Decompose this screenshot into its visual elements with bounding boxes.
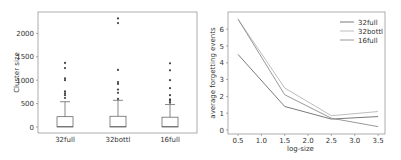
cluster-size-boxplot: 0500100015002000Cluster size32full32bott… (0, 0, 200, 160)
x-tick-label: 0.5 (232, 137, 243, 145)
legend-label: 16full (358, 37, 378, 45)
y-tick-label: 0 (30, 124, 34, 132)
outlier-point (169, 102, 171, 104)
x-tick-label: 2.0 (302, 137, 313, 145)
box-32bottl (110, 17, 126, 127)
outlier-point (169, 87, 171, 89)
outlier-point (117, 88, 119, 90)
y-tick-label: 1 (220, 110, 224, 118)
series-line-32full (238, 54, 378, 119)
y-tick-label: 6 (220, 26, 225, 34)
legend-label: 32full (358, 19, 378, 27)
box-32full (57, 62, 73, 127)
x-tick-label: 16full (160, 136, 180, 144)
x-tick-label: 3.5 (373, 137, 384, 145)
outlier-point (117, 98, 119, 100)
outlier-point (117, 83, 119, 85)
outlier-point (64, 94, 66, 96)
x-tick-label: 2.5 (326, 137, 337, 145)
y-tick-label: 5 (220, 43, 224, 51)
x-tick-label: 32full (55, 136, 75, 144)
outlier-point (117, 17, 119, 19)
outlier-point (169, 79, 171, 81)
outlier-point (169, 94, 171, 96)
legend: 32full32bottl16full (340, 19, 383, 45)
outlier-point (169, 62, 171, 64)
outlier-point (64, 97, 66, 99)
x-tick-label: 3.0 (349, 137, 360, 145)
linechart-canvas: 01234560.51.01.52.02.53.03.5log-sizeaver… (200, 0, 401, 160)
outlier-point (64, 62, 66, 64)
plot-frame (38, 12, 197, 133)
y-tick-label: 0 (220, 127, 224, 135)
outlier-point (117, 22, 119, 24)
outlier-point (169, 98, 171, 100)
y-tick-label: 500 (21, 100, 34, 108)
x-axis-label: log-size (287, 145, 314, 153)
outlier-point (64, 92, 66, 94)
legend-label: 32bottl (358, 28, 383, 36)
y-tick-label: 4 (220, 59, 225, 67)
boxplot-canvas: 0500100015002000Cluster size32full32bott… (0, 0, 200, 160)
forgetting-events-linechart: 01234560.51.01.52.02.53.03.5log-sizeaver… (200, 0, 401, 160)
box-16full (162, 62, 178, 127)
outlier-point (169, 69, 171, 71)
outlier-point (117, 69, 119, 71)
outlier-point (64, 77, 66, 79)
outlier-point (64, 90, 66, 92)
outlier-point (64, 67, 66, 69)
x-tick-label: 1.0 (256, 137, 267, 145)
outlier-point (117, 81, 119, 83)
outlier-point (117, 92, 119, 94)
y-axis-label: average forgetting events (209, 27, 217, 119)
y-axis-label: Cluster size (13, 52, 21, 93)
x-tick-label: 1.5 (279, 137, 290, 145)
y-tick-label: 2 (220, 93, 224, 101)
y-tick-label: 3 (220, 76, 224, 84)
x-tick-label: 32bottl (105, 136, 130, 144)
y-tick-label: 2000 (16, 30, 34, 38)
outlier-point (64, 79, 66, 81)
